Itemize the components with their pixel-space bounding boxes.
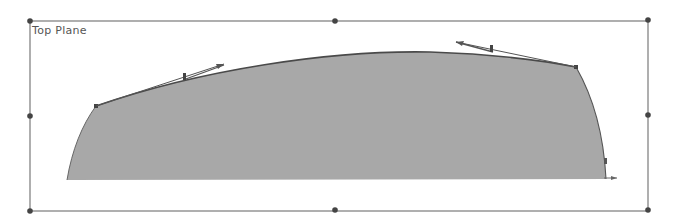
- handle-bottom-right[interactable]: [645, 207, 651, 213]
- sketch-profile-fill[interactable]: [67, 52, 606, 180]
- sketch-canvas: [0, 0, 677, 224]
- endpoint-marker[interactable]: [604, 158, 607, 164]
- arrow-head-icon: [216, 64, 224, 69]
- handle-top-left[interactable]: [27, 18, 33, 24]
- handle-bottom-left[interactable]: [27, 208, 33, 214]
- handle-mid-right[interactable]: [645, 112, 651, 118]
- handle-top-right[interactable]: [645, 17, 651, 23]
- plane-label: Top Plane: [32, 24, 87, 37]
- handle-bottom-mid[interactable]: [332, 207, 338, 213]
- tangent-weight-marker[interactable]: [490, 45, 493, 52]
- handle-mid-left[interactable]: [27, 113, 33, 119]
- handle-top-mid[interactable]: [332, 18, 338, 24]
- tangent-weight-marker[interactable]: [183, 73, 186, 80]
